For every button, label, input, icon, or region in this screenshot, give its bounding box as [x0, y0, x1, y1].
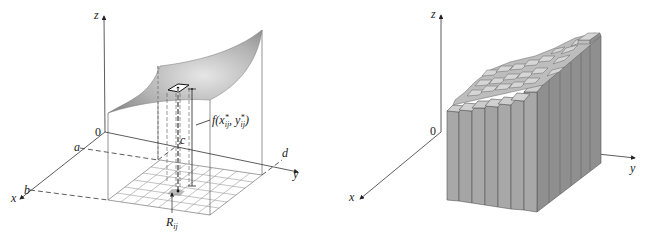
z-axis: [104, 16, 105, 132]
x-axis-label: x: [348, 190, 355, 204]
y-axis-label: y: [292, 167, 299, 181]
origin-label: 0: [430, 124, 436, 138]
x-axis: [20, 132, 105, 199]
rectangle-grid: [108, 160, 262, 215]
bound-b-label: b: [24, 183, 30, 197]
bound-a-label: a: [74, 140, 80, 154]
z-axis-label: z: [93, 8, 99, 22]
y-axis: [598, 154, 635, 158]
y-axis-label: y: [629, 161, 636, 175]
bound-d-label: d: [282, 146, 289, 160]
bound-c-label: c: [180, 133, 186, 147]
left-figure: z x y 0 a b c d f(x*ij, y*ij) Rij: [0, 0, 325, 240]
surface-f: [108, 30, 262, 113]
x-axis: [360, 132, 441, 199]
right-figure: z x y 0: [325, 0, 650, 240]
z-axis-label: z: [430, 7, 436, 21]
height-label: f(x*ij, y*ij): [212, 113, 249, 129]
subrectangle-label: Rij: [165, 215, 179, 231]
origin-label: 0: [95, 125, 101, 139]
x-axis-label: x: [10, 191, 17, 205]
